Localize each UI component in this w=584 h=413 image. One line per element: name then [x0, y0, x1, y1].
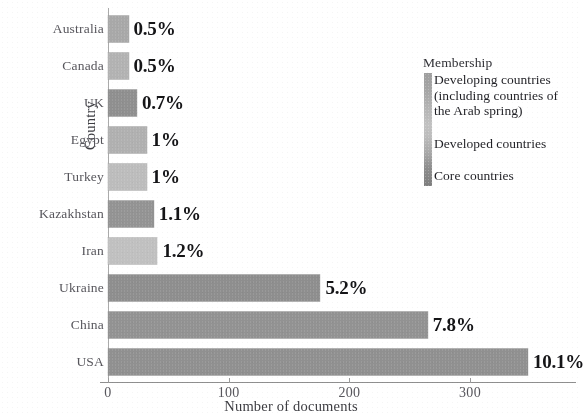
value-label-egypt: 1%: [152, 129, 180, 151]
legend: Membership Developing countries(includin…: [420, 55, 582, 184]
value-label-iran: 1.2%: [162, 240, 204, 262]
category-label-canada: Canada: [62, 58, 104, 74]
value-label-usa: 10.1%: [533, 351, 584, 373]
bar-row: Kazakhstan1.1%: [0, 195, 582, 232]
value-label-turkey: 1%: [152, 166, 180, 188]
legend-entry-line: Developed countries: [434, 136, 582, 152]
category-label-usa: USA: [76, 354, 104, 370]
bar-row: China7.8%: [0, 306, 582, 343]
bar-iran: [108, 237, 157, 264]
legend-entry-line: Core countries: [434, 168, 582, 184]
legend-entry-line: Developing countries: [434, 72, 582, 88]
value-label-kazakhstan: 1.1%: [159, 203, 201, 225]
legend-title: Membership: [423, 55, 582, 71]
value-label-china: 7.8%: [433, 314, 475, 336]
legend-entry-developing: Developing countries(including countries…: [434, 72, 582, 119]
bar-ukraine: [108, 274, 320, 301]
category-label-kazakhstan: Kazakhstan: [39, 206, 104, 222]
bar-australia: [108, 15, 129, 42]
legend-entry-developed: Developed countries: [434, 136, 582, 152]
bar-kazakhstan: [108, 200, 154, 227]
category-label-egypt: Egypt: [71, 132, 104, 148]
x-axis-title: Number of documents: [0, 398, 582, 413]
bar-canada: [108, 52, 129, 79]
bar-row: Australia0.5%: [0, 10, 582, 47]
legend-colorbar: [424, 73, 432, 186]
bar-turkey: [108, 163, 147, 190]
category-label-ukraine: Ukraine: [59, 280, 104, 296]
bar-egypt: [108, 126, 147, 153]
bar-china: [108, 311, 428, 338]
category-label-china: China: [71, 317, 104, 333]
legend-body: Developing countries(including countries…: [420, 72, 582, 184]
x-tick-label-0: 0: [104, 385, 111, 401]
category-label-uk: UK: [84, 95, 104, 111]
value-label-australia: 0.5%: [134, 18, 176, 40]
legend-entry-line: the Arab spring): [434, 103, 582, 119]
x-axis-line: [100, 382, 576, 383]
x-tick-label-100: 100: [218, 385, 240, 401]
category-label-australia: Australia: [53, 21, 104, 37]
category-label-iran: Iran: [81, 243, 104, 259]
bar-row: Ukraine5.2%: [0, 269, 582, 306]
x-tick-label-200: 200: [338, 385, 360, 401]
category-label-turkey: Turkey: [64, 169, 104, 185]
value-label-canada: 0.5%: [134, 55, 176, 77]
value-label-ukraine: 5.2%: [325, 277, 367, 299]
legend-entry-line: (including countries of: [434, 88, 582, 104]
legend-entry-core: Core countries: [434, 168, 582, 184]
x-tick-label-300: 300: [459, 385, 481, 401]
bar-row: USA10.1%: [0, 343, 582, 380]
bar-usa: [108, 348, 528, 375]
value-label-uk: 0.7%: [142, 92, 184, 114]
bar-row: Iran1.2%: [0, 232, 582, 269]
bar-uk: [108, 89, 137, 116]
